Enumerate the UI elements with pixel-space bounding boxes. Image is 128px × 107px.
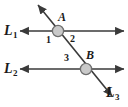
angle-label-2: 2 (70, 34, 75, 44)
angle-label-3: 3 (64, 53, 69, 63)
line-label-L3: L3 (106, 86, 120, 102)
line-L3 (38, 5, 112, 96)
vertex-point-B (80, 63, 91, 74)
line-label-L2-subscript: 2 (13, 68, 18, 78)
line-label-L1-subscript: 1 (13, 30, 18, 40)
geometry-figure: L1 L2 L3 A B 1 2 3 (0, 0, 128, 107)
line-label-L1: L1 (4, 24, 18, 40)
angle-label-1: 1 (46, 35, 51, 45)
line-label-L3-subscript: 3 (115, 92, 120, 102)
line-label-L1-base: L (4, 23, 13, 38)
vertex-point-A (52, 25, 63, 36)
point-label-B: B (86, 49, 94, 61)
point-label-A: A (58, 11, 66, 23)
line-label-L2: L2 (4, 62, 18, 78)
line-label-L2-base: L (4, 61, 13, 76)
line-label-L3-base: L (106, 85, 115, 100)
